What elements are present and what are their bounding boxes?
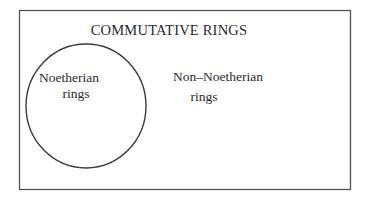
- diagram-canvas: COMMUTATIVE RINGS Noetherian rings Non–N…: [0, 0, 369, 201]
- non-noetherian-label-line2: rings: [191, 89, 218, 104]
- venn-diagram: COMMUTATIVE RINGS Noetherian rings Non–N…: [0, 0, 369, 201]
- non-noetherian-label-line1: Non–Noetherian: [173, 69, 263, 84]
- universe-label: COMMUTATIVE RINGS: [91, 22, 248, 38]
- noetherian-label-line2: rings: [63, 86, 90, 101]
- noetherian-label-line1: Noetherian: [39, 70, 99, 85]
